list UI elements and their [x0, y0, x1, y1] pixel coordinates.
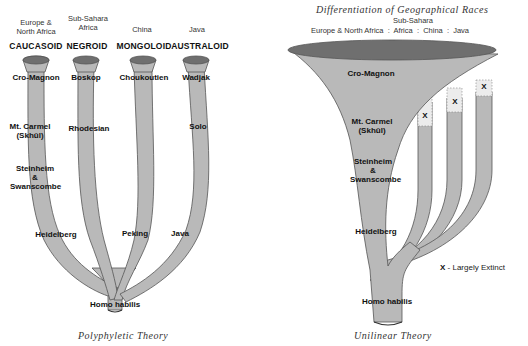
- fossil-steinheim: Steinheim: [350, 157, 396, 166]
- fossil-mt-carmel-line2: (Skhūl): [350, 126, 394, 135]
- fossil-mt-carmel-line1: Mt. Carmel: [8, 122, 52, 131]
- fossil-mt-carmel: Mt. Carmel (Skhūl): [350, 117, 394, 135]
- fossil-rhodesian: Rhodesian: [64, 124, 114, 133]
- race-caucasoid: CAUCASOID: [8, 42, 64, 51]
- fossil-cro-magnon: Cro-Magnon: [346, 69, 396, 78]
- fossil-peking: Peking: [120, 229, 150, 238]
- region-sub-sahara-africa: Sub-Sahara Africa: [60, 14, 116, 32]
- fossil-steinheim-swanscombe: Steinheim & Swanscombe: [10, 164, 60, 191]
- region-label-line1: Europe &: [6, 18, 66, 27]
- fossil-boskop: Boskop: [66, 73, 106, 82]
- main-funnel: [290, 50, 498, 322]
- race-negroid: NEGROID: [64, 42, 110, 51]
- diagram-canvas: [0, 0, 528, 346]
- fossil-wadjak: Wadjak: [176, 73, 216, 82]
- fossil-heidelberg: Heidelberg: [34, 230, 78, 239]
- fossil-mt-carmel-line2: (Skhūl): [8, 131, 52, 140]
- fossil-choukoutien: Choukoutien: [116, 73, 172, 82]
- fossil-steinheim-swanscombe: Steinheim & Swanscombe: [350, 157, 396, 184]
- ampersand: &: [350, 166, 396, 175]
- fossil-java: Java: [168, 229, 192, 238]
- legend-marker: X: [440, 263, 445, 272]
- header-sub-sahara: Sub-Sahara: [388, 16, 438, 25]
- extinct-marker-2: X: [451, 97, 459, 106]
- fossil-homo-habilis: Homo habilis: [362, 297, 412, 306]
- region-label-line2: Africa: [60, 23, 116, 32]
- polyphyletic-theory-title: Polyphyletic Theory: [78, 330, 168, 341]
- fossil-solo: Solo: [186, 122, 210, 131]
- unilinear-theory-title: Unilinear Theory: [354, 330, 432, 341]
- region-java: Java: [180, 25, 214, 34]
- race-mongoloid: MONGOLOID: [116, 42, 172, 51]
- fossil-swanscombe: Swanscombe: [10, 182, 60, 191]
- region-label-line2: North Africa: [6, 27, 66, 36]
- legend-text: - Largely Extinct: [448, 263, 505, 272]
- region-europe-north-africa: Europe & North Africa: [6, 18, 66, 36]
- fossil-cro-magnon: Cro-Magnon: [8, 73, 64, 82]
- fossil-steinheim: Steinheim: [10, 164, 60, 173]
- branch-mongoloid: [114, 66, 154, 300]
- differentiation-title: Differentiation of Geographical Races: [316, 4, 488, 15]
- fossil-swanscombe: Swanscombe: [350, 175, 396, 184]
- race-australoid: AUSTRALOID: [170, 42, 230, 51]
- legend-largely-extinct: X - Largely Extinct: [440, 263, 505, 272]
- region-china: China: [124, 25, 160, 34]
- header-regions: Europe & North Africa : Africa : China :…: [290, 26, 490, 35]
- extinct-marker-1: X: [421, 111, 429, 120]
- ampersand: &: [10, 173, 60, 182]
- fossil-heidelberg: Heidelberg: [354, 227, 398, 236]
- fossil-mt-carmel-line1: Mt. Carmel: [350, 117, 394, 126]
- fossil-homo-habilis: Homo habilis: [90, 300, 140, 309]
- extinct-marker-3: X: [480, 82, 488, 91]
- branch-negroid: [78, 66, 118, 300]
- fossil-mt-carmel: Mt. Carmel (Skhūl): [8, 122, 52, 140]
- region-label-line1: Sub-Sahara: [60, 14, 116, 23]
